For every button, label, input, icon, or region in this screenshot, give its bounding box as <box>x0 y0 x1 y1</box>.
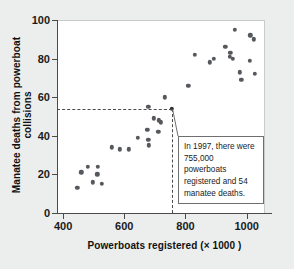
y-tick-mark <box>52 97 57 98</box>
y-axis-title: Manatee deaths from powerboat collisions <box>11 15 33 215</box>
x-tick-mark <box>124 214 125 219</box>
y-tick-mark <box>52 174 57 175</box>
x-tick-label: 800 <box>176 220 194 232</box>
manatee-scatter-chart: 4006008001000 020406080100 In 1997, ther… <box>0 0 294 269</box>
x-tick-label: 1000 <box>234 220 258 232</box>
x-tick-mark <box>185 214 186 219</box>
x-tick-label: 600 <box>115 220 133 232</box>
y-tick-mark <box>52 136 57 137</box>
y-tick-mark <box>52 213 57 214</box>
reference-line-vertical <box>172 109 173 213</box>
x-tick-mark <box>247 214 248 219</box>
x-axis-line <box>57 213 272 214</box>
reference-line-horizontal <box>57 109 172 110</box>
x-tick-mark <box>63 214 64 219</box>
x-tick-label: 400 <box>54 220 72 232</box>
x-axis-title: Powerboats registered (× 1000 ) <box>57 240 272 251</box>
y-tick-mark <box>52 20 57 21</box>
y-axis-line <box>57 20 58 213</box>
annotation-callout: In 1997, there were 755,000 powerboats r… <box>178 136 264 204</box>
y-tick-mark <box>52 59 57 60</box>
